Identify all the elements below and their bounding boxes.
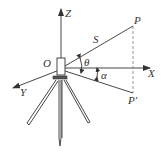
total-station-diagram: Z X Y S P P' O θ α	[0, 0, 168, 152]
theta-arc	[80, 58, 82, 73]
origin-label: O	[43, 57, 51, 69]
line-o-p	[65, 26, 133, 66]
z-axis-label: Z	[65, 7, 72, 19]
alpha-label: α	[101, 69, 107, 81]
point-p-label: P	[133, 14, 141, 26]
total-station-instrument	[53, 58, 67, 79]
alpha-arc	[97, 68, 98, 77]
x-axis-label: X	[147, 67, 156, 79]
y-axis-label: Y	[20, 86, 28, 98]
tripod	[27, 80, 90, 146]
theta-label: θ	[84, 56, 90, 68]
point-p-prime-label: P'	[127, 94, 138, 106]
line-o-p-prime	[65, 71, 133, 93]
slope-distance-label: S	[93, 33, 99, 45]
